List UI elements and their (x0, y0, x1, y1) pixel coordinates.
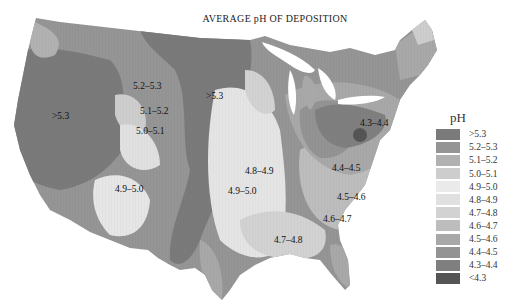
label-central-48-49: 4.8–4.9 (245, 166, 274, 176)
label-nw-50-51: 5.0–5.1 (136, 126, 165, 136)
label-plains-gt53: >5.3 (206, 91, 223, 101)
label-sw-49-50: 4.9–5.0 (115, 184, 144, 194)
legend-label: 4.7–4.8 (469, 208, 498, 218)
legend-label: 4.3–4.4 (469, 260, 498, 270)
legend-swatch (436, 220, 460, 231)
legend-item: 4.3–4.4 (436, 259, 516, 272)
legend-swatch (436, 155, 460, 166)
legend-item: 5.1–5.2 (436, 154, 516, 167)
label-east-44-45: 4.4–4.5 (332, 163, 361, 173)
label-central-49-50: 4.9–5.0 (228, 186, 257, 196)
label-se-46-47: 4.6–4.7 (323, 214, 352, 224)
legend-item: 4.7–4.8 (436, 207, 516, 220)
legend-swatch (436, 260, 460, 271)
legend-title: pH (450, 110, 466, 126)
legend-label: 4.9–5.0 (469, 182, 498, 192)
legend-label: 4.4–4.5 (469, 247, 498, 257)
legend-item: 5.2–5.3 (436, 141, 516, 154)
legend-swatch (436, 207, 460, 218)
legend-item: <4.3 (436, 272, 516, 285)
legend-item: 4.6–4.7 (436, 220, 516, 233)
label-nw-51-52: 5.1–5.2 (140, 106, 169, 116)
legend-swatch (436, 129, 460, 140)
label-east-45-46: 4.5–4.6 (337, 192, 366, 202)
legend-label: 4.5–4.6 (469, 234, 498, 244)
legend-swatch (436, 142, 460, 153)
legend-swatch (436, 181, 460, 192)
legend: >5.35.2–5.35.1–5.25.0–5.14.9–5.04.8–4.94… (436, 128, 516, 285)
legend-item: 4.5–4.6 (436, 233, 516, 246)
legend-label: 5.0–5.1 (469, 169, 498, 179)
legend-item: 4.4–4.5 (436, 246, 516, 259)
legend-swatch (436, 273, 460, 284)
label-ohio-43-44: 4.3–4.4 (360, 118, 389, 128)
legend-item: 5.0–5.1 (436, 167, 516, 180)
legend-item: 4.9–5.0 (436, 180, 516, 193)
legend-swatch (436, 194, 460, 205)
legend-swatch (436, 247, 460, 258)
legend-item: >5.3 (436, 128, 516, 141)
legend-item: 4.8–4.9 (436, 193, 516, 206)
legend-label: 4.8–4.9 (469, 195, 498, 205)
legend-label: >5.3 (469, 129, 486, 139)
legend-label: 5.1–5.2 (469, 155, 498, 165)
legend-swatch (436, 168, 460, 179)
label-west-gt53: >5.3 (52, 111, 69, 121)
legend-label: 5.2–5.3 (469, 142, 498, 152)
label-nw-52-53: 5.2–5.3 (133, 81, 162, 91)
legend-swatch (436, 234, 460, 245)
label-south-47-48: 4.7–4.8 (274, 235, 303, 245)
legend-label: 4.6–4.7 (469, 221, 498, 231)
map-title: AVERAGE pH OF DEPOSITION (150, 13, 400, 24)
legend-label: <4.3 (469, 273, 486, 283)
